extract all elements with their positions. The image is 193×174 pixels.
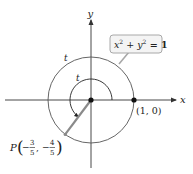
callout-leader: [119, 52, 129, 64]
svg-text:P: P: [9, 142, 17, 153]
P-y-numerator: 4: [50, 139, 55, 147]
outer-arc-label: t: [64, 53, 68, 63]
radius-segment-to-P: [65, 100, 91, 134]
svg-text:): ): [56, 137, 63, 157]
svg-text:,: ,: [36, 143, 39, 153]
y-axis-label: y: [87, 8, 94, 19]
point-P: [64, 133, 67, 136]
point-P-label: P ( − 3 5 , − 4 5 ): [9, 137, 63, 157]
inner-arc-label: t: [76, 73, 80, 83]
origin-point: [88, 97, 93, 102]
P-x-denominator: 5: [30, 149, 34, 157]
P-y-denominator: 5: [50, 149, 54, 157]
start-point-label: (1, 0): [136, 105, 162, 116]
unit-circle-diagram: x y x2 + y2 = 1 t t (1, 0) P ( − 3 5 , −…: [0, 0, 193, 174]
x-axis-label: x: [180, 94, 186, 105]
start-point-1-0: [131, 97, 136, 102]
svg-text:−: −: [22, 142, 30, 152]
P-x-numerator: 3: [30, 139, 34, 147]
svg-text:−: −: [42, 142, 50, 152]
